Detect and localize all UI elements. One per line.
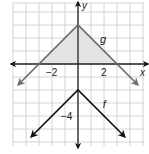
label-f: f bbox=[103, 98, 107, 110]
x-tick-label: −2 bbox=[46, 67, 58, 78]
x-tick-label: 2 bbox=[101, 67, 107, 78]
graph: −22−4xygf bbox=[0, 0, 149, 154]
y-axis-label: y bbox=[81, 0, 88, 11]
y-tick-label: −4 bbox=[61, 111, 73, 122]
label-g: g bbox=[100, 33, 107, 45]
x-axis-label: x bbox=[139, 67, 146, 78]
